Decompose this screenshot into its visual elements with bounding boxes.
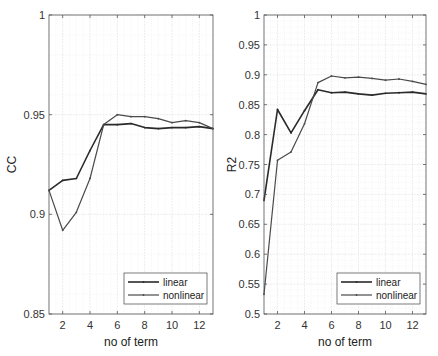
y-tick-label: 0.75 [239, 159, 260, 171]
data-point [385, 79, 387, 81]
x-axis-label: no of term [104, 335, 158, 349]
y-tick-label: 0.9 [245, 69, 260, 81]
data-point [185, 127, 187, 129]
data-point [157, 128, 159, 130]
x-tick-label: 2 [60, 319, 66, 331]
x-tick-label: 6 [114, 319, 120, 331]
y-tick-label: 0.65 [239, 218, 260, 230]
data-point [103, 124, 105, 126]
x-tick-label: 4 [87, 319, 93, 331]
legend-label-nonlinear: nonlinear [376, 290, 418, 301]
y-axis-label: R2 [225, 157, 239, 173]
data-point [130, 116, 132, 118]
x-tick-label: 10 [379, 319, 391, 331]
data-point [144, 116, 146, 118]
data-point [277, 159, 279, 161]
data-point [277, 109, 279, 111]
data-point [157, 118, 159, 120]
data-point [412, 80, 414, 82]
data-point [371, 77, 373, 79]
x-axis-label: no of term [318, 335, 372, 349]
data-point [116, 124, 118, 126]
x-tick-label: 2 [274, 319, 280, 331]
y-axis-label: CC [5, 156, 19, 174]
x-tick-label: 6 [328, 319, 334, 331]
x-tick-label: 10 [166, 319, 178, 331]
data-point [358, 76, 360, 78]
data-point [317, 89, 319, 91]
legend: linearnonlinear [337, 273, 420, 304]
y-tick-label: 1 [39, 9, 45, 21]
y-tick-label: 0.7 [245, 188, 260, 200]
y-tick-label: 0.95 [239, 39, 260, 51]
data-point [171, 122, 173, 124]
data-point [331, 92, 333, 94]
y-tick-label: 0.55 [239, 278, 260, 290]
y-tick-label: 0.85 [24, 308, 45, 320]
legend: linearnonlinear [124, 273, 207, 304]
data-point [130, 123, 132, 125]
data-point [89, 150, 91, 152]
data-point [385, 92, 387, 94]
data-point [185, 120, 187, 122]
y-tick-label: 0.8 [245, 129, 260, 141]
y-tick-label: 1 [254, 9, 260, 21]
x-tick-label: 12 [193, 319, 205, 331]
data-point [144, 127, 146, 129]
x-tick-label: 8 [142, 319, 148, 331]
x-tick-label: 4 [301, 319, 307, 331]
data-point [62, 229, 64, 231]
data-point [398, 92, 400, 94]
data-point [290, 151, 292, 153]
plot-cc: 246810120.850.90.951no of termCClinearno… [5, 9, 214, 349]
y-tick-label: 0.5 [245, 308, 260, 320]
data-point [371, 94, 373, 96]
data-point [398, 78, 400, 80]
data-point [412, 91, 414, 93]
x-tick-label: 12 [406, 319, 418, 331]
data-point [344, 77, 346, 79]
data-point [198, 122, 200, 124]
data-point [171, 127, 173, 129]
figure: 246810120.850.90.951no of termCClinearno… [0, 0, 438, 356]
plot-r2: 246810120.50.550.60.650.70.750.80.850.90… [225, 9, 427, 349]
legend-label-linear: linear [376, 277, 401, 288]
legend-label-nonlinear: nonlinear [163, 290, 205, 301]
data-point [304, 110, 306, 112]
legend-label-linear: linear [163, 277, 188, 288]
data-point [317, 82, 319, 84]
data-point [290, 132, 292, 134]
data-point [358, 93, 360, 95]
y-tick-label: 0.85 [239, 99, 260, 111]
data-point [344, 91, 346, 93]
data-point [89, 178, 91, 180]
data-point [75, 178, 77, 180]
data-point [198, 126, 200, 128]
data-point [62, 180, 64, 182]
data-point [331, 75, 333, 77]
x-tick-label: 8 [355, 319, 361, 331]
data-point [75, 211, 77, 213]
data-point [116, 114, 118, 116]
y-tick-label: 0.9 [30, 208, 45, 220]
data-point [304, 123, 306, 125]
y-tick-label: 0.95 [24, 109, 45, 121]
y-tick-label: 0.6 [245, 248, 260, 260]
